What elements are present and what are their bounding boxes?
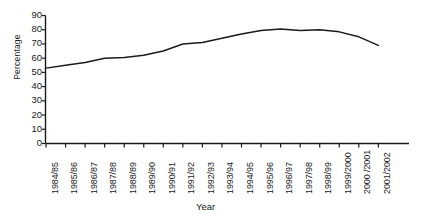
line-chart: Percentage 0102030405060708090 1984/8519…	[0, 0, 431, 223]
x-axis-tick-label: 1985/86	[69, 162, 79, 194]
x-axis-tick-label: 2001/2002	[382, 152, 392, 194]
x-axis-tick-label: 1998/99	[323, 162, 333, 194]
x-axis-tick-label: 1995/96	[265, 162, 275, 194]
x-axis-tick-label: 2000 /2001	[362, 150, 372, 194]
x-axis-tick-label: 1996/97	[284, 162, 294, 194]
x-axis-tick-label: 1997/98	[304, 162, 314, 194]
x-axis-tick-label: 1999/2000	[343, 152, 353, 194]
x-axis-tick-label: 1986/87	[89, 162, 99, 194]
x-axis-tick-label: 1990/91	[167, 162, 177, 194]
x-axis-tick-label: 1992/93	[206, 162, 216, 194]
x-axis-tick-label: 1984/85	[50, 162, 60, 194]
x-axis-tick-label: 1988/89	[128, 162, 138, 194]
x-axis-tick-label: 1989/90	[147, 162, 157, 194]
x-axis-title: Year	[196, 201, 215, 212]
x-axis-tick-label: 1991/92	[186, 162, 196, 194]
x-axis-tick-label: 1987/88	[108, 162, 118, 194]
x-axis-tick-labels: 1984/851985/861986/871987/881988/891989/…	[0, 0, 431, 223]
x-axis-tick-label: 1993/94	[225, 162, 235, 194]
x-axis-tick-label: 1994/95	[245, 162, 255, 194]
